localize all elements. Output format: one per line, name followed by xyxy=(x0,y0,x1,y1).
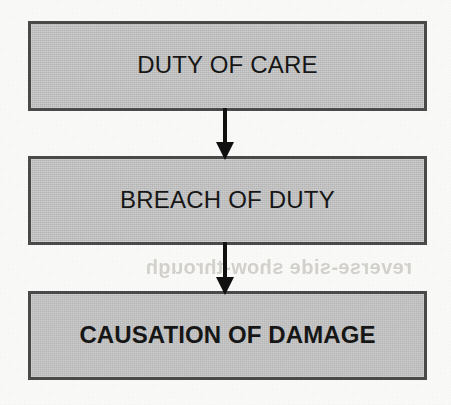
flow-node-duty-of-care[interactable]: DUTY OF CARE xyxy=(28,21,427,111)
arrow-down-icon xyxy=(209,108,241,160)
arrow-down-icon xyxy=(209,242,241,295)
flow-node-label: BREACH OF DUTY xyxy=(31,186,424,214)
flow-arrow-breach-to-causation xyxy=(209,242,241,295)
diagram-canvas: reverse-side show-through DUTY OF CARE B… xyxy=(0,0,451,405)
flow-node-causation-of-damage[interactable]: CAUSATION OF DAMAGE xyxy=(28,291,427,380)
flow-arrow-duty-to-breach xyxy=(209,108,241,160)
flow-node-breach-of-duty[interactable]: BREACH OF DUTY xyxy=(28,156,427,245)
flow-node-label: DUTY OF CARE xyxy=(31,51,424,79)
flow-node-label: CAUSATION OF DAMAGE xyxy=(31,321,424,349)
